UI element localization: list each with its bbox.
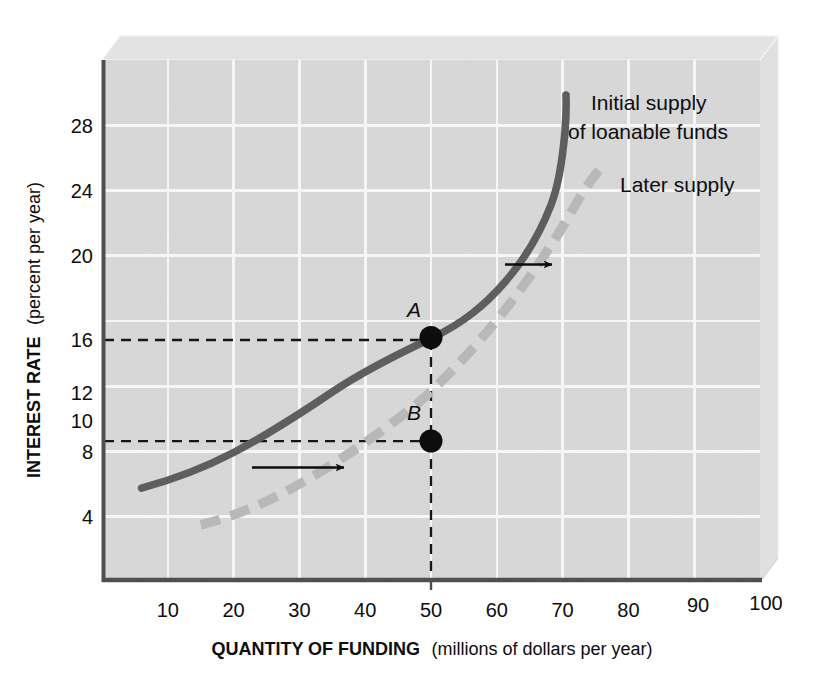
y-tick-label: 12 — [71, 382, 93, 404]
y-tick-label: 24 — [71, 180, 93, 202]
x-tick-labels: 10 20 30 40 50 60 70 80 90 100 — [157, 592, 783, 621]
y-tick-label: 4 — [82, 506, 93, 528]
svg-text:QUANTITY OF FUNDING (m: QUANTITY OF FUNDING (millions of dollars… — [211, 639, 652, 659]
y-tick-labels: 4 8 10 12 16 20 24 28 — [71, 115, 93, 528]
x-axis-title: QUANTITY OF FUNDING (millions of dollars… — [211, 639, 652, 659]
y-tick-label: 20 — [71, 245, 93, 267]
x-tick-label: 20 — [222, 599, 244, 621]
supply-of-loanable-funds-chart: A B Initial supply of loanable funds Lat… — [0, 0, 822, 674]
x-tick-label: 60 — [486, 599, 508, 621]
x-tick-label: 30 — [288, 599, 310, 621]
x-tick-label: 40 — [354, 599, 376, 621]
point-b-label: B — [407, 401, 421, 424]
y-tick-label: 28 — [71, 115, 93, 137]
y-axis-title-paren: (percent per year) — [24, 182, 44, 325]
y-tick-label: 16 — [71, 329, 93, 351]
y-tick-label-extra: 10 — [71, 410, 93, 432]
y-axis-title: INTEREST RATE (percent per year) — [24, 182, 44, 478]
later-supply-label: Later supply — [620, 173, 735, 196]
x-axis-title-paren: (millions of dollars per year) — [432, 639, 653, 659]
x-tick-label: 100 — [749, 592, 782, 614]
x-tick-label: 10 — [157, 599, 179, 621]
svg-text:INTEREST RATE (percent: INTEREST RATE (percent per year) — [24, 182, 44, 478]
initial-supply-label-line1: Initial supply — [591, 91, 707, 114]
x-tick-label: 70 — [551, 599, 573, 621]
x-tick-label: 80 — [617, 599, 639, 621]
y-axis-title-bold: INTEREST RATE — [24, 336, 44, 478]
x-axis-title-bold: QUANTITY OF FUNDING — [211, 639, 420, 659]
point-a-label: A — [405, 298, 421, 321]
point-a-marker — [420, 326, 443, 349]
chart-canvas: A B Initial supply of loanable funds Lat… — [0, 0, 822, 674]
x-tick-label: 50 — [420, 599, 442, 621]
x-tick-label: 90 — [687, 594, 709, 616]
point-b-marker — [420, 430, 443, 453]
y-tick-label: 8 — [82, 441, 93, 463]
initial-supply-label-line2: of loanable funds — [568, 120, 728, 143]
